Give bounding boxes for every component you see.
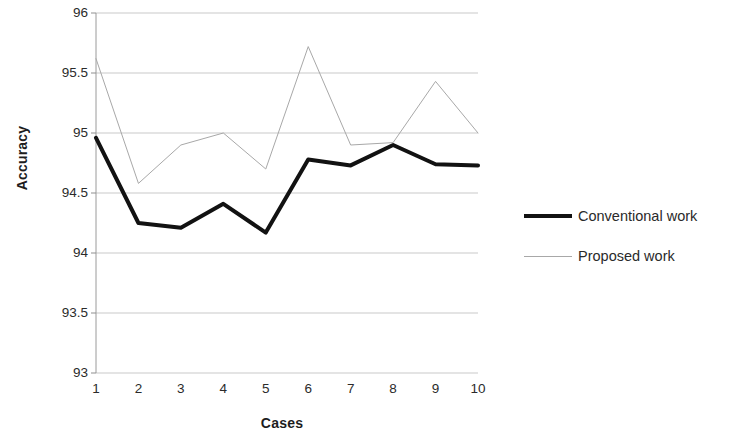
legend-item-proposed: Proposed work: [524, 236, 734, 276]
legend-label-conventional: Conventional work: [572, 208, 697, 224]
data-series-layer: [96, 47, 478, 233]
data-series-proposed: [96, 47, 478, 184]
legend-swatch-conventional-icon: [524, 209, 572, 223]
legend: Conventional work Proposed work: [524, 196, 734, 276]
legend-label-proposed: Proposed work: [572, 248, 675, 264]
legend-item-conventional: Conventional work: [524, 196, 734, 236]
legend-swatch-proposed-icon: [524, 249, 572, 263]
chart-figure: Accuracy Cases 9393.59494.59595.596 1234…: [0, 0, 734, 447]
data-series-conventional: [96, 138, 478, 233]
y-axis-tickmarks: [91, 13, 96, 373]
